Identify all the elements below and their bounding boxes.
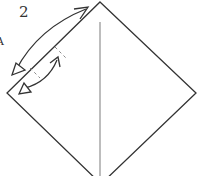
origami-fold-diagram: 2 A (0, 0, 201, 176)
fold-diagram-canvas (0, 0, 201, 176)
square-paper-outline (7, 2, 196, 176)
step-number-label: 2 (19, 5, 29, 20)
fold-tick-lower (30, 68, 40, 78)
fold-tick-upper (55, 47, 66, 58)
cropped-edge-label: A (0, 36, 4, 47)
